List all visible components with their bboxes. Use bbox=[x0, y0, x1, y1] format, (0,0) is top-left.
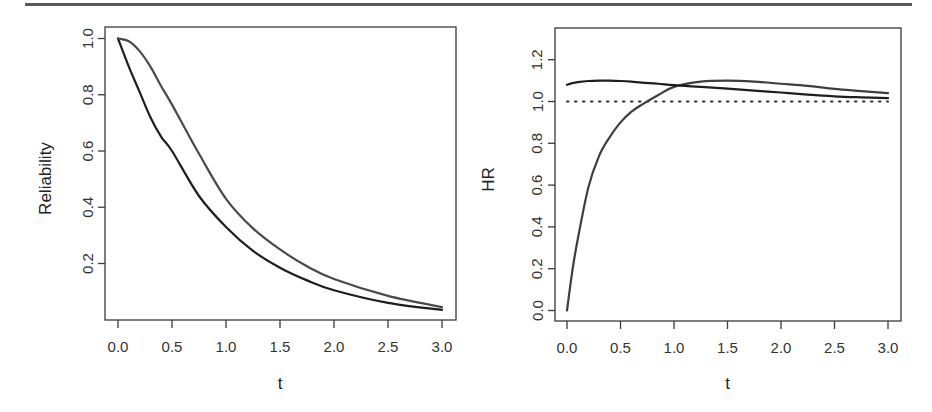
x-tick-label: 2.0 bbox=[324, 338, 345, 355]
y-tick-label: 1.0 bbox=[529, 91, 546, 112]
x-axis-title: t bbox=[278, 374, 283, 393]
reliability-plot: 0.20.40.60.81.0 0.00.51.01.52.02.53.0 Re… bbox=[36, 27, 457, 393]
y-tick-label: 0.2 bbox=[79, 253, 96, 274]
x-tick-label: 1.5 bbox=[717, 339, 738, 356]
x-tick-label: 1.5 bbox=[270, 338, 291, 355]
plot-frame bbox=[105, 27, 456, 320]
series-line bbox=[118, 39, 442, 310]
hazard-ratio-plot: 0.00.20.40.60.81.01.2 0.00.51.01.52.02.5… bbox=[479, 28, 902, 393]
y-tick-label: 0.8 bbox=[79, 84, 96, 105]
x-tick-label: 3.0 bbox=[878, 339, 899, 356]
y-axis: 0.20.40.60.81.0 bbox=[79, 28, 106, 274]
y-tick-label: 0.2 bbox=[529, 258, 546, 279]
y-tick-label: 0.0 bbox=[529, 300, 546, 321]
plot-frame bbox=[555, 28, 901, 321]
y-tick-label: 0.6 bbox=[529, 175, 546, 196]
x-tick-label: 0.0 bbox=[557, 339, 578, 356]
series-line bbox=[567, 81, 888, 311]
y-tick-label: 0.8 bbox=[529, 133, 546, 154]
y-axis: 0.00.20.40.60.81.01.2 bbox=[529, 49, 556, 321]
y-tick-label: 1.2 bbox=[529, 49, 546, 70]
x-tick-label: 2.5 bbox=[378, 338, 399, 355]
y-axis-title: HR bbox=[479, 167, 498, 192]
x-tick-label: 1.0 bbox=[216, 338, 237, 355]
series-lines bbox=[118, 39, 442, 310]
x-tick-label: 0.5 bbox=[610, 339, 631, 356]
series-lines bbox=[567, 81, 888, 311]
x-tick-label: 2.0 bbox=[771, 339, 792, 356]
x-tick-label: 2.5 bbox=[824, 339, 845, 356]
x-tick-label: 0.5 bbox=[162, 338, 183, 355]
y-tick-label: 0.6 bbox=[79, 141, 96, 162]
x-tick-label: 1.0 bbox=[664, 339, 685, 356]
x-tick-label: 0.0 bbox=[108, 338, 129, 355]
y-tick-label: 1.0 bbox=[79, 28, 96, 49]
x-axis-title: t bbox=[725, 374, 730, 393]
y-tick-label: 0.4 bbox=[529, 216, 546, 237]
figure: 0.20.40.60.81.0 0.00.51.01.52.02.53.0 Re… bbox=[0, 0, 932, 412]
y-axis-title: Reliability bbox=[36, 142, 55, 215]
x-axis: 0.00.51.01.52.02.53.0 bbox=[108, 320, 453, 355]
y-tick-label: 0.4 bbox=[79, 197, 96, 218]
x-axis: 0.00.51.01.52.02.53.0 bbox=[557, 321, 899, 356]
x-tick-label: 3.0 bbox=[432, 338, 453, 355]
